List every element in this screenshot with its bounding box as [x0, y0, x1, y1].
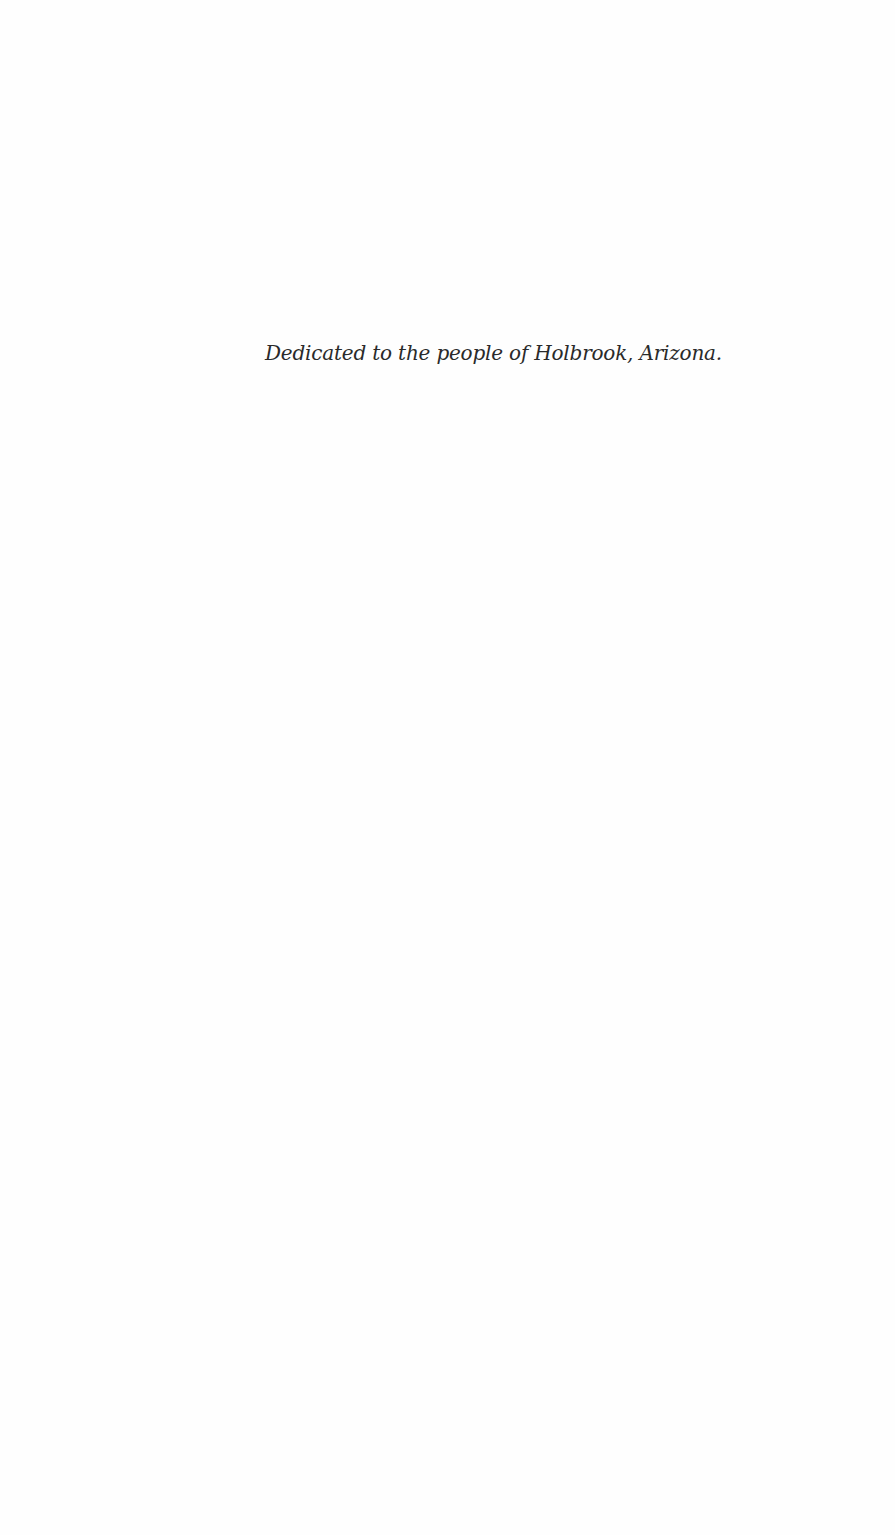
- book-page: Dedicated to the people of Holbrook, Ari…: [0, 0, 895, 1535]
- dedication-text: Dedicated to the people of Holbrook, Ari…: [265, 336, 725, 370]
